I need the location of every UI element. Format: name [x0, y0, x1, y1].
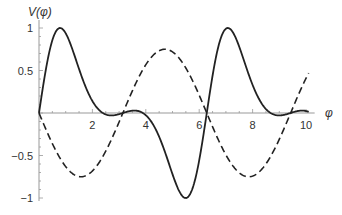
y-tick-label: −0.5: [11, 150, 33, 162]
y-tick-label: 1: [27, 22, 33, 34]
x-tick-label: 10: [300, 119, 312, 131]
x-tick-label: 2: [89, 119, 95, 131]
y-tick-label: −1: [20, 192, 33, 204]
axes: [39, 20, 315, 201]
y-tick-label: 0.5: [18, 65, 33, 77]
chart: 246810−1−0.50.51 V(φ) φ: [0, 0, 342, 215]
x-tick-label: 4: [143, 119, 149, 131]
y-axis-label: V(φ): [28, 5, 52, 19]
x-tick-label: 8: [250, 119, 256, 131]
x-axis-label: φ: [325, 106, 333, 120]
x-tick-label: 6: [196, 119, 202, 131]
